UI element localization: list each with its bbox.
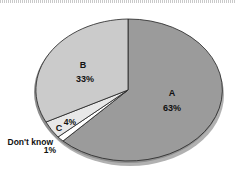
label-a-pct: 63% xyxy=(163,103,181,113)
label-c-name: C xyxy=(56,123,63,133)
label-b-name: B xyxy=(80,60,87,70)
label-b-pct: 33% xyxy=(76,74,94,84)
label-dont-know-pct: 1% xyxy=(44,145,57,155)
pie-chart: B 33% A 63% C 4% Don't know 1% xyxy=(0,0,235,175)
label-c-pct: 4% xyxy=(64,117,77,127)
label-a-name: A xyxy=(169,88,176,98)
